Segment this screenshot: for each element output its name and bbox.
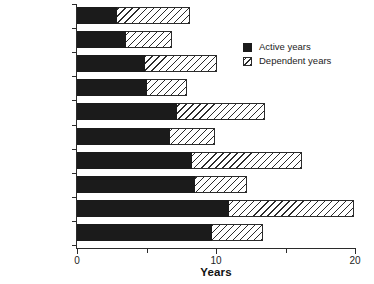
bar-segment-dependent	[192, 152, 302, 169]
x-axis-title: Years	[77, 266, 355, 278]
bar-segment-active	[77, 31, 126, 48]
y-tick	[72, 52, 77, 53]
y-tick	[72, 173, 77, 174]
y-tick	[72, 197, 77, 198]
x-tick-label: 10	[210, 255, 221, 266]
stacked-bar-chart: Female, 85+Male, 85+Female, 80-84Male, 8…	[0, 0, 374, 284]
y-tick	[72, 125, 77, 126]
bar-segment-active	[77, 79, 147, 96]
x-tick-label: 20	[349, 255, 360, 266]
legend-label-active: Active years	[259, 42, 311, 52]
bar-segment-dependent	[147, 79, 187, 96]
chart-row: Male, 70-74	[77, 176, 355, 193]
chart-row: Female, 70-74	[77, 152, 355, 169]
bar-segment-dependent	[229, 200, 354, 217]
chart-row: Female, 85+	[77, 7, 355, 24]
x-tick	[147, 249, 148, 253]
stacked-bar	[77, 7, 190, 24]
stacked-bar	[77, 176, 247, 193]
bar-segment-active	[77, 224, 212, 241]
y-tick	[72, 76, 77, 77]
legend-item-active: Active years	[243, 41, 331, 53]
bar-segment-active	[77, 176, 195, 193]
bar-segment-dependent	[170, 128, 214, 145]
stacked-bar	[77, 224, 263, 241]
stacked-bar	[77, 103, 265, 120]
bar-segment-dependent	[145, 55, 217, 72]
y-tick	[72, 149, 77, 150]
legend-label-dependent: Dependent years	[259, 56, 331, 66]
legend-item-dependent: Dependent years	[243, 55, 331, 67]
stacked-bar	[77, 31, 172, 48]
legend-swatch-active-icon	[243, 43, 252, 52]
x-tick-label: 0	[74, 255, 80, 266]
x-tick	[355, 249, 356, 254]
chart-legend: Active years Dependent years	[243, 41, 331, 69]
x-tick	[286, 249, 287, 253]
legend-swatch-dependent-icon	[243, 57, 252, 66]
bar-segment-dependent	[126, 31, 172, 48]
bar-segment-active	[77, 128, 170, 145]
bar-segment-dependent	[117, 7, 189, 24]
stacked-bar	[77, 152, 302, 169]
bar-segment-active	[77, 55, 145, 72]
x-tick	[216, 249, 217, 254]
stacked-bar	[77, 200, 354, 217]
x-tick	[77, 249, 78, 254]
x-axis-title-wrap: Years	[77, 266, 355, 278]
stacked-bar	[77, 79, 187, 96]
chart-row: Female, 65-69	[77, 200, 355, 217]
chart-row: Male, 80-84	[77, 79, 355, 96]
y-tick	[72, 245, 77, 246]
y-tick	[72, 28, 77, 29]
bar-segment-active	[77, 200, 229, 217]
y-tick	[72, 4, 77, 5]
bar-segment-dependent	[177, 103, 265, 120]
chart-row: Male, 65-69	[77, 224, 355, 241]
stacked-bar	[77, 55, 217, 72]
bar-segment-active	[77, 7, 117, 24]
y-tick	[72, 100, 77, 101]
stacked-bar	[77, 128, 215, 145]
chart-row: Male, 75-79	[77, 128, 355, 145]
bar-segment-dependent	[195, 176, 246, 193]
bar-segment-active	[77, 152, 192, 169]
y-tick	[72, 221, 77, 222]
bar-segment-active	[77, 103, 177, 120]
bar-segment-dependent	[212, 224, 263, 241]
chart-row: Female, 75-79	[77, 103, 355, 120]
